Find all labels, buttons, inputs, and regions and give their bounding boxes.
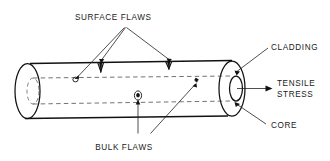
left-end-core-ellipse-hidden: [27, 78, 39, 104]
surface-flaws-label: SURFACE FLAWS: [75, 13, 152, 22]
cladding-leader: [235, 48, 269, 76]
bulk-flaw-1-center: [137, 93, 140, 97]
core-leader: [235, 102, 267, 124]
tensile-stress-arrowhead: [266, 86, 273, 92]
core-lower-dashed-line: [33, 101, 232, 104]
core-hidden-boundaries: [33, 76, 232, 104]
surface-flaws-leader-right: [127, 28, 170, 60]
core-label: CORE: [271, 121, 297, 130]
surface-flaws-leaders: [74, 28, 172, 80]
tensile-stress-label-line1: TENSILE: [277, 79, 315, 88]
surface-flaws-leader-middle: [102, 28, 126, 61]
bulk-flaw-features: [134, 78, 198, 100]
cylinder-bottom-edge: [25, 116, 228, 119]
surface-flaw-features: [73, 62, 172, 82]
cladding-arrowhead: [235, 71, 241, 76]
cladding-leader-line: [236, 48, 269, 73]
core-upper-dashed-line: [33, 76, 232, 78]
bulk-flaws-leader-diagonal: [151, 84, 196, 134]
cladding-label: CLADDING: [271, 43, 318, 52]
tensile-stress-label-line2: STRESS: [277, 90, 313, 99]
core-leader-line: [237, 104, 267, 124]
left-end-cladding-ellipse: [15, 64, 40, 119]
bulk-flaws-leaders: [136, 83, 197, 134]
bulk-flaw-2-marker: [195, 78, 199, 82]
diagram-canvas: SURFACE FLAWS BULK FLAWS CLADDING CORE T…: [0, 0, 330, 161]
cylinder-top-edge: [30, 61, 232, 64]
fiber-flaw-diagram: SURFACE FLAWS BULK FLAWS CLADDING CORE T…: [0, 0, 330, 161]
cladding-cylinder: [15, 61, 245, 119]
bulk-flaw-arrowhead-1: [136, 100, 141, 105]
bulk-flaws-label: BULK FLAWS: [95, 143, 153, 152]
